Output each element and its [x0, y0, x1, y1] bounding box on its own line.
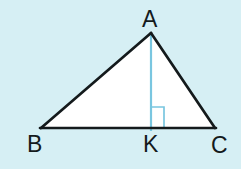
geometry-figure: A B K C — [0, 0, 241, 169]
vertex-label-k: K — [143, 133, 158, 156]
vertex-label-c: C — [211, 134, 228, 157]
vertex-label-b: B — [27, 133, 42, 156]
vertex-label-a: A — [142, 8, 157, 31]
triangle-interior — [41, 33, 215, 128]
